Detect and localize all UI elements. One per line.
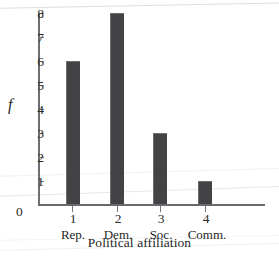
plot-area: 1 2 3 4 5 6 7 8 f xyxy=(0,0,279,256)
bar-soc xyxy=(153,133,167,205)
y-tick-label: 3 xyxy=(22,127,44,141)
y-tick-label: 6 xyxy=(22,55,44,69)
x-tick-label: 2 xyxy=(98,212,138,226)
y-tick-label: 8 xyxy=(22,7,44,21)
y-axis-title: f xyxy=(8,97,12,113)
bar-rep xyxy=(66,61,80,205)
x-tick-label: 3 xyxy=(141,212,181,226)
y-tick-label: 2 xyxy=(22,151,44,165)
x-tick-label-origin: 0 xyxy=(16,205,23,219)
y-tick-label: 5 xyxy=(22,79,44,93)
y-tick-label: 7 xyxy=(22,31,44,45)
bar-chart-figure: 1 2 3 4 5 6 7 8 f xyxy=(0,0,279,256)
bar-dem xyxy=(110,13,124,205)
y-tick-label: 4 xyxy=(22,103,44,117)
x-tick-label: 1 xyxy=(53,212,93,226)
bar-comm xyxy=(198,181,212,205)
x-axis-title: Political affiliation xyxy=(0,236,279,250)
y-tick-label: 1 xyxy=(22,175,44,189)
x-tick-label: 4 xyxy=(186,212,226,226)
